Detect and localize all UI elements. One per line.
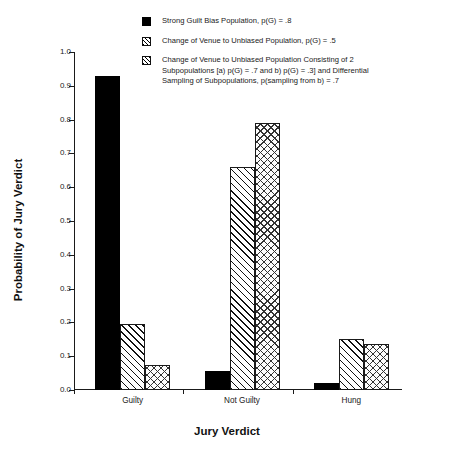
x-axis-category-label: Guilty <box>122 396 143 405</box>
x-tick-mark <box>293 390 294 394</box>
y-tick-label: 0.5 <box>60 216 71 225</box>
y-tick-label: 1.0 <box>60 47 71 56</box>
x-tick-mark <box>183 390 184 394</box>
y-tick-label: 0.2 <box>60 317 71 326</box>
plot-area: 0.00.10.20.30.40.50.60.70.80.91.0 Guilty… <box>74 52 402 390</box>
bar <box>95 76 120 390</box>
legend-swatch-solid-icon <box>142 17 151 26</box>
y-axis-title: Probability of Jury Verdict <box>6 120 30 340</box>
y-tick-label: 0.8 <box>60 115 71 124</box>
bar <box>255 123 280 390</box>
x-axis-category-label: Not Guilty <box>224 396 260 405</box>
legend-swatch-hatch-icon <box>142 37 151 46</box>
y-axis-line <box>74 52 75 390</box>
bar <box>314 383 339 390</box>
x-axis-category-label: Hung <box>342 396 362 405</box>
bar <box>145 365 170 390</box>
y-tick-label: 0.0 <box>60 385 71 394</box>
bar <box>230 167 255 390</box>
bar-chart-figure: Strong Guilt Bias Population, p(G) = .8 … <box>0 0 454 461</box>
legend-label-2: Change of Venue to Unbiased Population, … <box>162 36 336 47</box>
legend-label-1: Strong Guilt Bias Population, p(G) = .8 <box>162 16 291 27</box>
bar <box>205 371 230 390</box>
legend-entry-1: Strong Guilt Bias Population, p(G) = .8 <box>142 16 442 27</box>
x-axis-title: Jury Verdict <box>0 425 454 437</box>
y-tick-label: 0.3 <box>60 284 71 293</box>
y-tick-label: 0.6 <box>60 182 71 191</box>
bar <box>120 324 145 390</box>
x-tick-mark <box>74 390 75 394</box>
legend-entry-2: Change of Venue to Unbiased Population, … <box>142 36 442 47</box>
y-tick-label: 0.1 <box>60 351 71 360</box>
y-axis-title-text: Probability of Jury Verdict <box>12 159 24 302</box>
y-tick-label: 0.4 <box>60 250 71 259</box>
y-tick-label: 0.7 <box>60 148 71 157</box>
y-tick-label: 0.9 <box>60 81 71 90</box>
bar <box>364 344 389 390</box>
bar <box>339 339 364 390</box>
